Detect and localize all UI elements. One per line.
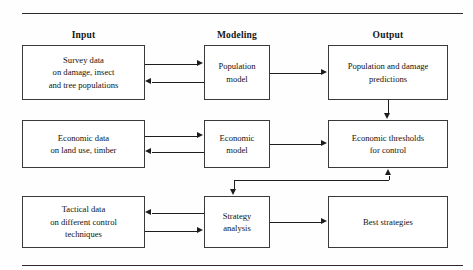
box-strategy-analysis-line-2: analysis [220, 222, 255, 234]
column-header-input: Input [22, 30, 145, 40]
top-rule [22, 13, 463, 14]
arrowhead-survey-to-population-model-icon [197, 60, 203, 66]
box-economic-model-line-1: Economic [217, 132, 258, 144]
box-survey-data-line-3: and tree populations [46, 79, 122, 91]
connector-thresholds-strategy-horizontal [234, 180, 389, 181]
arrowhead-economic-model-to-thresholds-icon [321, 140, 327, 146]
box-survey-data: Survey data on damage, insect and tree p… [22, 45, 145, 100]
connector-economic-model-to-thresholds [270, 144, 321, 145]
box-economic-model-line-2: model [217, 144, 258, 156]
connector-survey-to-population-model [145, 64, 197, 65]
connector-economic-data-to-economic-model [145, 136, 197, 137]
box-tactical-data: Tactical data on different control techn… [22, 196, 145, 248]
flow-diagram-figure: Input Modeling Output Survey data on dam… [0, 0, 473, 270]
arrowhead-economic-model-to-economic-data-icon [145, 148, 151, 154]
box-population-damage-predictions-line-2: predictions [345, 73, 432, 85]
box-economic-model: Economic model [204, 120, 270, 168]
box-economic-data-line-1: Economic data [48, 132, 120, 144]
connector-predictions-to-thresholds [388, 100, 389, 113]
box-population-model-line-2: model [215, 73, 258, 85]
arrowhead-strategy-to-thresholds-icon [385, 169, 391, 175]
column-header-output: Output [328, 30, 448, 40]
arrowhead-thresholds-to-strategy-icon [230, 189, 236, 195]
box-economic-thresholds: Economic thresholds for control [328, 120, 448, 168]
box-best-strategies-line-1: Best strategies [360, 216, 416, 228]
connector-thresholds-to-strategy-vertical [234, 180, 235, 189]
arrowhead-economic-data-to-economic-model-icon [197, 132, 203, 138]
box-economic-data: Economic data on land use, timber [22, 120, 145, 168]
box-population-damage-predictions-line-1: Population and damage [345, 60, 432, 72]
connector-population-model-to-survey [152, 82, 204, 83]
box-economic-thresholds-line-2: for control [349, 144, 427, 156]
column-header-modeling: Modeling [204, 30, 270, 40]
connector-strategy-to-thresholds-vertical [389, 176, 390, 180]
arrowhead-population-model-to-survey-icon [145, 78, 151, 84]
arrowhead-predictions-to-thresholds-icon [384, 113, 390, 119]
box-population-model-line-1: Population [215, 60, 258, 72]
box-economic-data-line-2: on land use, timber [48, 144, 120, 156]
box-population-model: Population model [204, 45, 270, 100]
bottom-rule [22, 265, 463, 266]
connector-strategy-to-best-strategies [270, 222, 321, 223]
arrowhead-strategy-to-tactical-data-icon [145, 209, 151, 215]
connector-strategy-to-tactical-data [152, 213, 204, 214]
arrowhead-population-model-to-predictions-icon [321, 69, 327, 75]
box-population-damage-predictions: Population and damage predictions [328, 45, 448, 100]
box-strategy-analysis-line-1: Strategy [220, 210, 255, 222]
box-tactical-data-line-3: techniques [47, 228, 120, 240]
box-survey-data-line-2: on damage, insect [46, 66, 122, 78]
box-survey-data-line-1: Survey data [46, 54, 122, 66]
arrowhead-tactical-data-to-strategy-icon [197, 227, 203, 233]
box-strategy-analysis: Strategy analysis [204, 196, 270, 248]
connector-tactical-data-to-strategy [145, 231, 197, 232]
box-tactical-data-line-2: on different control [47, 216, 120, 228]
box-best-strategies: Best strategies [328, 196, 448, 248]
connector-economic-model-to-economic-data [152, 152, 204, 153]
box-tactical-data-line-1: Tactical data [47, 203, 120, 215]
connector-population-model-to-predictions [270, 73, 321, 74]
arrowhead-strategy-to-best-strategies-icon [321, 218, 327, 224]
box-economic-thresholds-line-1: Economic thresholds [349, 132, 427, 144]
